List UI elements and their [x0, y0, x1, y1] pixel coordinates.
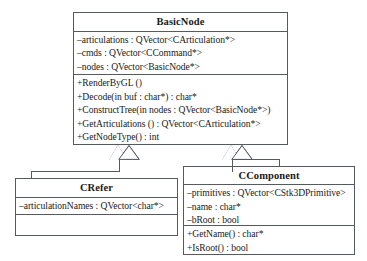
- class-attribute: –articulations : QVector<CArticulation*>: [74, 33, 287, 47]
- hollow-triangle-icon: [231, 145, 253, 160]
- class-attribute: –articulationNames : QVector<char*>: [16, 199, 177, 213]
- attributes-compartment-ccomponent: –primitives : QVector<CStk3DPrimitive> –…: [184, 185, 354, 225]
- uml-class-diagram-canvas: BasicNode –articulations : QVector<CArti…: [0, 0, 367, 261]
- generalization-arrowhead-crefer: [109, 145, 127, 160]
- generalization-arrowhead-ccomponent: [222, 145, 240, 160]
- generalization-line-ccomponent-vertical-lower: [279, 159, 280, 167]
- generalization-line-crefer-horizontal: [31, 171, 120, 172]
- attributes-compartment-crefer: –articulationNames : QVector<char*>: [16, 198, 177, 214]
- class-name-ccomponent: CComponent: [184, 167, 354, 185]
- class-operation: +GetNodeType() : int: [74, 130, 287, 144]
- operations-compartment-basicnode: +RenderByGL () +Decode(in buf : char*) :…: [74, 74, 287, 144]
- class-attribute: –nodes : QVector<BasicNode*>: [74, 60, 287, 74]
- operations-compartment-crefer: [16, 214, 177, 229]
- class-operation: +ConstructTree(in nodes : QVector<BasicN…: [74, 103, 287, 117]
- class-operation: +GetName() : char*: [184, 227, 354, 241]
- class-attribute: –primitives : QVector<CStk3DPrimitive>: [184, 186, 354, 200]
- hollow-triangle-icon: [118, 145, 140, 160]
- class-attribute: –bRoot : bool: [184, 213, 354, 225]
- class-box-ccomponent[interactable]: CComponent –primitives : QVector<CStk3DP…: [183, 166, 355, 255]
- class-box-crefer[interactable]: CRefer –articulationNames : QVector<char…: [15, 178, 178, 236]
- generalization-line-crefer-vertical-lower: [31, 171, 32, 179]
- class-attribute: –name : char*: [184, 200, 354, 214]
- class-attribute: –cmds : QVector<CCommand*>: [74, 46, 287, 60]
- class-operation: +IsRoot() : bool: [184, 241, 354, 254]
- class-name-crefer: CRefer: [16, 179, 177, 198]
- class-box-basicnode[interactable]: BasicNode –articulations : QVector<CArti…: [73, 12, 288, 145]
- class-name-basicnode: BasicNode: [74, 13, 287, 32]
- generalization-line-ccomponent-vertical-upper: [232, 160, 233, 172]
- class-operation: +RenderByGL (): [74, 76, 287, 90]
- class-operation: +GetArticulations () : QVector<CArticula…: [74, 117, 287, 131]
- generalization-line-ccomponent-horizontal: [232, 159, 280, 160]
- attributes-compartment-basicnode: –articulations : QVector<CArticulation*>…: [74, 32, 287, 74]
- operations-compartment-ccomponent: +GetName() : char* +IsRoot() : bool: [184, 225, 354, 254]
- class-operation: +Decode(in buf : char*) : char*: [74, 90, 287, 104]
